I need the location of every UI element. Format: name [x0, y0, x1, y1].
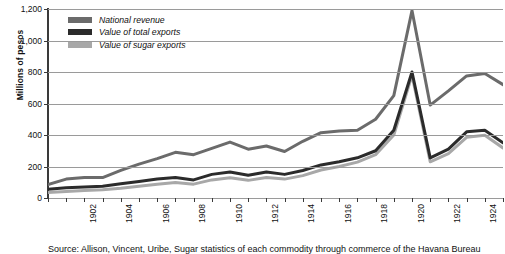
- gridline: [48, 9, 503, 10]
- y-axis-tick-label: 0: [0, 193, 42, 203]
- y-axis-tick: [44, 167, 48, 168]
- x-axis-tick: [285, 198, 286, 202]
- x-axis-tick: [430, 198, 431, 202]
- gridline: [48, 198, 503, 199]
- series-line: [48, 75, 503, 192]
- legend-label: National revenue: [99, 15, 165, 25]
- x-axis-tick: [339, 198, 340, 202]
- x-axis-tick-label: 1916: [343, 204, 353, 223]
- x-axis-tick: [485, 198, 486, 202]
- x-axis-tick-label: 1924: [488, 204, 498, 223]
- x-axis-tick: [212, 198, 213, 202]
- gridline: [48, 104, 503, 105]
- x-axis-tick: [66, 198, 67, 202]
- x-axis-tick: [157, 198, 158, 202]
- y-axis-tick-label: 1,200: [0, 4, 42, 14]
- chart-legend: National revenueValue of total exportsVa…: [68, 14, 186, 52]
- x-axis-tick-label: 1908: [197, 204, 207, 223]
- y-axis-tick: [44, 41, 48, 42]
- y-axis-tick-label: 200: [0, 162, 42, 172]
- x-axis-tick: [303, 198, 304, 202]
- x-axis-tick: [357, 198, 358, 202]
- x-axis-tick: [230, 198, 231, 202]
- y-axis-tick-label: 800: [0, 67, 42, 77]
- x-axis-tick-label: 1922: [452, 204, 462, 223]
- legend-item: Value of total exports: [68, 27, 186, 38]
- gridline: [48, 135, 503, 136]
- x-axis-tick-label: 1914: [306, 204, 316, 223]
- x-axis-tick: [503, 198, 504, 202]
- figure-caption: Source: Allison, Vincent, Uribe, Sugar s…: [48, 244, 498, 254]
- x-axis-tick: [194, 198, 195, 202]
- x-axis-tick-label: 1918: [379, 204, 389, 223]
- x-axis-tick-label: 1910: [234, 204, 244, 223]
- x-axis-tick: [84, 198, 85, 202]
- x-axis-tick: [321, 198, 322, 202]
- x-axis-tick: [467, 198, 468, 202]
- x-axis-tick: [248, 198, 249, 202]
- x-axis-tick-label: 1920: [416, 204, 426, 223]
- x-axis-tick: [139, 198, 140, 202]
- x-axis-tick: [376, 198, 377, 202]
- legend-item: National revenue: [68, 14, 186, 25]
- legend-swatch: [68, 42, 92, 48]
- x-axis-tick-label: 1904: [124, 204, 134, 223]
- legend-swatch: [68, 29, 92, 35]
- y-axis-tick-label: 600: [0, 99, 42, 109]
- x-axis-tick: [412, 198, 413, 202]
- x-axis-tick: [394, 198, 395, 202]
- gridline: [48, 167, 503, 168]
- x-axis-tick-label: 1902: [88, 204, 98, 223]
- x-axis-tick: [266, 198, 267, 202]
- legend-swatch: [68, 17, 92, 23]
- x-axis-tick: [103, 198, 104, 202]
- x-axis-tick: [121, 198, 122, 202]
- x-axis-tick-label: 1912: [270, 204, 280, 223]
- y-axis-tick: [44, 104, 48, 105]
- y-axis-tick-label: 1,000: [0, 36, 42, 46]
- x-axis-tick: [48, 198, 49, 202]
- legend-item: Value of sugar exports: [68, 39, 186, 50]
- y-axis-tick-label: 400: [0, 130, 42, 140]
- x-axis-tick: [448, 198, 449, 202]
- y-axis-tick: [44, 9, 48, 10]
- y-axis-tick: [44, 135, 48, 136]
- x-axis-tick: [175, 198, 176, 202]
- legend-label: Value of total exports: [99, 27, 180, 37]
- gridline: [48, 72, 503, 73]
- legend-label: Value of sugar exports: [99, 40, 186, 50]
- x-axis-tick-label: 1906: [161, 204, 171, 223]
- y-axis-tick: [44, 72, 48, 73]
